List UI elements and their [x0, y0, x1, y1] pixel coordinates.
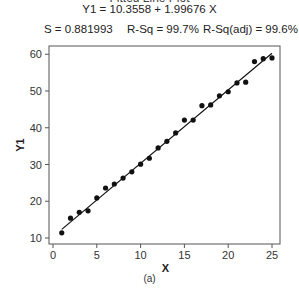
data-point — [77, 210, 82, 215]
data-point — [68, 216, 73, 221]
data-point — [269, 55, 274, 60]
data-point — [164, 139, 169, 144]
data-point — [199, 103, 204, 108]
data-point — [147, 156, 152, 161]
y-tick-label: 20 — [30, 195, 42, 207]
data-point — [217, 93, 222, 98]
data-point — [156, 145, 161, 150]
data-point — [85, 208, 90, 213]
x-tick-label: 0 — [50, 249, 56, 261]
x-tick-label: 10 — [134, 249, 146, 261]
data-point — [112, 181, 117, 186]
data-point — [138, 162, 143, 167]
data-point — [173, 130, 178, 135]
y-axis-title: Y1 — [14, 138, 26, 151]
data-point — [243, 80, 248, 85]
data-point — [252, 59, 257, 64]
data-point — [120, 175, 125, 180]
data-point — [234, 80, 239, 85]
figure-caption: (a) — [0, 273, 299, 284]
x-tick-label: 15 — [178, 249, 190, 261]
y-tick-label: 40 — [30, 122, 42, 134]
y-tick-label: 10 — [30, 232, 42, 244]
y-tick-label: 60 — [30, 48, 42, 60]
data-point — [59, 230, 64, 235]
y-tick-label: 50 — [30, 85, 42, 97]
y-tick-label: 30 — [30, 159, 42, 171]
data-point — [226, 89, 231, 94]
data-point — [261, 56, 266, 61]
data-point — [208, 102, 213, 107]
data-point — [191, 117, 196, 122]
fitted-line-plot: 0510152025102030405060XY1 — [0, 0, 299, 296]
x-tick-label: 5 — [94, 249, 100, 261]
data-point — [129, 169, 134, 174]
data-point — [103, 185, 108, 190]
x-tick-label: 25 — [266, 249, 278, 261]
x-tick-label: 20 — [222, 249, 234, 261]
data-point — [182, 117, 187, 122]
data-point — [94, 195, 99, 200]
